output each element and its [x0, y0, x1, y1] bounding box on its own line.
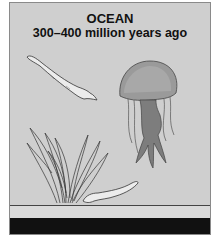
ocean-scene-panel: OCEAN 300–400 million years ago	[9, 2, 211, 235]
fish-upper-icon	[27, 56, 97, 100]
ocean-illustration	[10, 3, 211, 235]
seaweed-icon	[27, 128, 108, 203]
jellyfish-icon	[120, 61, 177, 168]
fish-lower-icon	[83, 182, 138, 203]
bedrock-layer	[10, 218, 210, 235]
